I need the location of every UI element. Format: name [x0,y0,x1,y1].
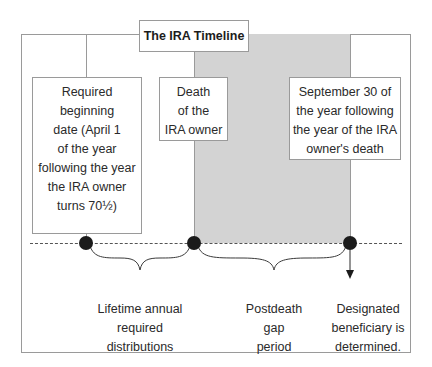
period-text-line: period [236,338,312,357]
period-text-line: Postdeath [236,300,312,319]
arrow-down-icon [346,270,354,279]
period-label-beneficiary: Designated beneficiary is determined. [320,300,416,357]
brace-gap-icon [198,246,346,270]
period-text-line: Designated [320,300,416,319]
period-label-gap: Postdeath gap period [236,300,312,357]
period-text-line: Lifetime annual [80,300,200,319]
period-text-line: required [80,319,200,338]
timeline-dot-death [187,236,201,250]
timeline-dot-required-beginning [79,236,93,250]
brace-lifetime-icon [90,246,190,270]
period-label-lifetime: Lifetime annual required distributions [80,300,200,357]
period-text-line: beneficiary is [320,319,416,338]
timeline-dot-september-30 [343,236,357,250]
period-text-line: determined. [320,338,416,357]
period-text-line: distributions [80,338,200,357]
period-text-line: gap [236,319,312,338]
